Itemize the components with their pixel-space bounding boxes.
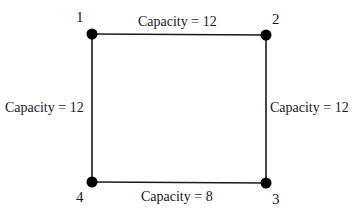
edge-4-3-label: Capacity = 8: [141, 189, 213, 204]
edge-1-2-label: Capacity = 12: [138, 14, 217, 29]
node-3: [261, 178, 272, 189]
node-4-label: 4: [76, 189, 84, 205]
edge-1-2: [92, 34, 266, 35]
network-diagram: 1 2 3 4 Capacity = 12 Capacity = 12 Capa…: [0, 0, 361, 215]
node-4: [87, 177, 98, 188]
node-1: [87, 29, 98, 40]
node-2: [261, 30, 272, 41]
node-1-label: 1: [76, 9, 84, 25]
edge-1-4-label: Capacity = 12: [5, 100, 84, 115]
node-2-label: 2: [272, 11, 280, 27]
node-3-label: 3: [272, 191, 280, 207]
edge-2-3-label: Capacity = 12: [270, 100, 349, 115]
edge-4-3: [92, 182, 266, 183]
